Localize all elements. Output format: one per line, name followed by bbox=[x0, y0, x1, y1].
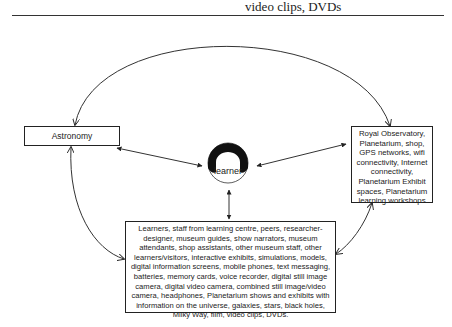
arc-astronomy-people bbox=[71, 147, 124, 259]
arc-resources-people bbox=[336, 203, 372, 254]
arc-astronomy-resources bbox=[75, 46, 390, 126]
arrow-astronomy-learner bbox=[117, 148, 202, 166]
learner-head-icon bbox=[208, 143, 248, 183]
node-people-and-tools: Learners, staff from learning centre, pe… bbox=[125, 221, 336, 313]
node-astronomy: Astronomy bbox=[24, 126, 120, 146]
learner-label: learner bbox=[208, 166, 248, 176]
node-resources: Royal Observatory, Planetarium, shop, GP… bbox=[351, 126, 433, 203]
arrow-resources-learner bbox=[257, 144, 346, 166]
